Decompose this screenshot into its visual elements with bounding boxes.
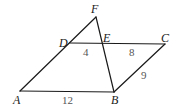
point-label-a: A (12, 93, 21, 107)
point-label-f: F (90, 2, 99, 16)
point-label-b: B (111, 93, 119, 107)
point-label-d: D (58, 36, 68, 50)
segment-ab (20, 91, 114, 92)
segment-fb (96, 17, 114, 92)
point-label-c: C (161, 31, 170, 45)
segment-bc (114, 44, 165, 92)
point-label-e: E (102, 31, 111, 45)
geometry-diagram: F D E C A B 4 8 9 12 (0, 0, 182, 109)
length-label-ec: 8 (129, 46, 135, 58)
length-label-de: 4 (83, 46, 89, 58)
segment-dc (70, 43, 165, 44)
length-label-ab: 12 (62, 94, 73, 106)
diagram-canvas: F D E C A B 4 8 9 12 (0, 0, 182, 109)
length-label-bc: 9 (141, 69, 147, 81)
